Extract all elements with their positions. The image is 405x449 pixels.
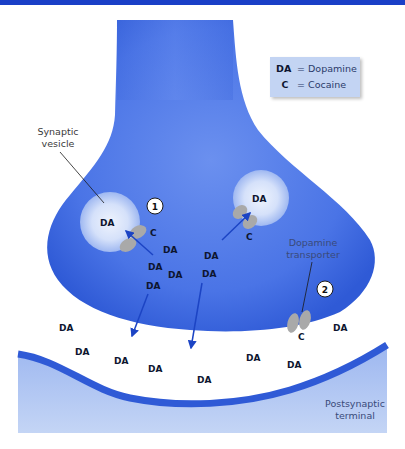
dopamine-molecule-cleft: DA	[197, 375, 211, 385]
svg-text:1: 1	[152, 202, 158, 212]
postsynaptic-label-line2: terminal	[335, 410, 375, 421]
dopamine-transporter-label-line2: transporter	[286, 249, 340, 260]
dopamine-molecule: DA	[204, 251, 218, 261]
dopamine-molecule: DA	[146, 281, 160, 291]
dopamine-molecule-cleft: DA	[246, 353, 260, 363]
step-2-marker: 2	[317, 281, 333, 297]
synaptic-vesicle-label-line2: vesicle	[42, 138, 75, 149]
dopamine-molecule: DA	[168, 270, 182, 280]
dopamine-molecule-cleft: DA	[287, 360, 301, 370]
cocaine-label-3: C	[298, 332, 305, 342]
svg-text:2: 2	[322, 285, 328, 295]
dopamine-molecule-cleft: DA	[114, 356, 128, 366]
legend-item-dopamine: DA = Dopamine	[276, 63, 357, 74]
cocaine-label-2: C	[246, 232, 253, 242]
dopamine-molecule: DA	[202, 269, 216, 279]
postsynaptic-label-line1: Postsynaptic	[325, 398, 385, 409]
step-1-marker: 1	[147, 198, 163, 214]
cocaine-label-1: C	[150, 228, 157, 238]
dopamine-molecule: DA	[163, 245, 177, 255]
dopamine-transporter-label-line1: Dopamine	[289, 237, 338, 248]
dopamine-molecule-cleft: DA	[75, 347, 89, 357]
dopamine-molecule-cleft: DA	[148, 364, 162, 374]
dopamine-molecule-cleft: DA	[59, 323, 73, 333]
legend-item-cocaine: C = Cocaine	[276, 79, 346, 90]
vesicle-2-dopamine-label: DA	[252, 194, 266, 204]
dopamine-molecule-cleft: DA	[333, 323, 347, 333]
vesicle-1-dopamine-label: DA	[100, 218, 114, 228]
synaptic-vesicle-label-line1: Synaptic	[37, 126, 78, 137]
legend-box: DA = Dopamine C = Cocaine	[270, 57, 360, 97]
postsynaptic-terminal	[18, 345, 387, 433]
dopamine-molecule: DA	[148, 262, 162, 272]
